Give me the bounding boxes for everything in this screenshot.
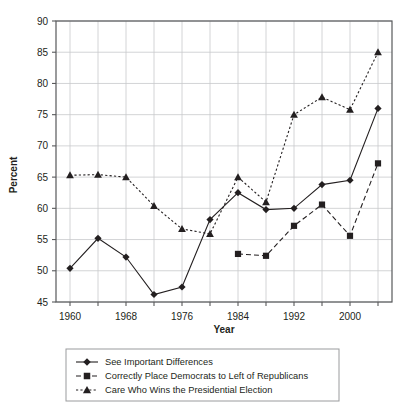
chart-figure: 45505560657075808590 1960196819761984199…	[0, 0, 408, 417]
y-tick-label: 65	[37, 172, 49, 183]
square-marker	[347, 233, 353, 239]
x-tick-label: 1960	[59, 311, 82, 322]
y-tick-label: 55	[37, 234, 49, 245]
x-tick-label: 1984	[227, 311, 250, 322]
y-tick-label: 90	[37, 16, 49, 27]
y-tick-label: 50	[37, 265, 49, 276]
y-tick-label: 85	[37, 47, 49, 58]
y-tick-label: 60	[37, 203, 49, 214]
triangle-marker	[66, 171, 74, 178]
series-line	[70, 108, 378, 294]
plot-frame	[56, 21, 392, 302]
triangle-marker	[318, 93, 326, 100]
x-tick-label: 1976	[171, 311, 194, 322]
square-marker	[235, 251, 241, 257]
legend-item-3[interactable]: Care Who Wins the Presidential Election	[76, 385, 272, 395]
diamond-marker	[262, 206, 269, 213]
x-tick-label: 1992	[283, 311, 306, 322]
legend-label: Correctly Place Democrats to Left of Rep…	[105, 371, 308, 381]
triangle-marker	[234, 173, 242, 180]
triangle-marker	[150, 202, 158, 209]
y-tick-label: 80	[37, 78, 49, 89]
axis-ticks	[52, 21, 378, 306]
x-axis-tick-labels: 196019681976198419922000	[59, 311, 362, 322]
square-marker	[375, 160, 381, 166]
plot-border	[56, 21, 392, 302]
square-marker	[263, 253, 269, 259]
triangle-marker	[290, 111, 298, 118]
triangle-marker	[374, 48, 382, 55]
series-1	[66, 105, 381, 298]
series-2	[235, 160, 381, 259]
data-series-layer	[66, 48, 382, 298]
y-tick-label: 75	[37, 109, 49, 120]
y-axis-tick-labels: 45505560657075808590	[37, 16, 49, 308]
square-marker	[319, 201, 325, 207]
triangle-marker	[262, 198, 270, 205]
legend-item-2[interactable]: Correctly Place Democrats to Left of Rep…	[76, 371, 308, 381]
legend-label: Care Who Wins the Presidential Election	[105, 385, 272, 395]
square-marker	[291, 223, 297, 229]
x-tick-label: 2000	[339, 311, 362, 322]
x-tick-label: 1968	[115, 311, 138, 322]
diamond-marker	[346, 177, 353, 184]
y-tick-label: 45	[37, 297, 49, 308]
diamond-marker	[374, 105, 381, 112]
y-axis-title: Percent	[8, 156, 19, 193]
square-marker	[84, 373, 91, 380]
chart-legend: See Important DifferencesCorrectly Place…	[66, 349, 339, 401]
gridlines	[56, 21, 392, 302]
triangle-marker	[346, 106, 354, 113]
x-axis-title: Year	[213, 324, 234, 335]
y-tick-label: 70	[37, 140, 49, 151]
diamond-marker	[178, 283, 185, 290]
triangle-marker	[94, 171, 102, 178]
triangle-marker	[206, 230, 214, 237]
legend-label: See Important Differences	[105, 357, 213, 367]
line-chart: 45505560657075808590 1960196819761984199…	[0, 0, 408, 417]
